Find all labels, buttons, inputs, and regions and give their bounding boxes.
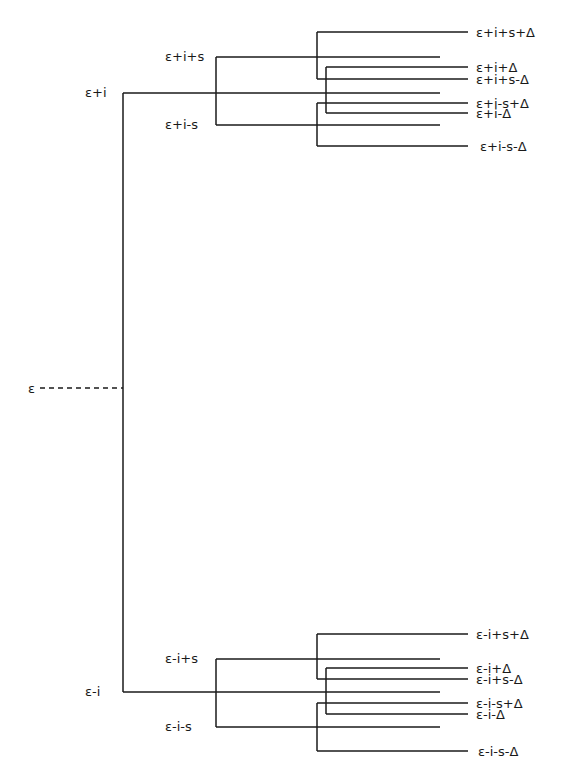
branch-group-minus-i: ε-iε-i+sε-i-sε-i+s+Δε-i+Δε-i+s-Δε-i-s+Δε…	[85, 627, 529, 759]
s-branch-label: ε+i+s	[165, 49, 204, 64]
branch-label: ε+i	[85, 85, 107, 100]
leaf-label: ε-i+s-Δ	[476, 672, 523, 687]
root-node: ε	[28, 93, 123, 692]
leaf-label: ε+i-Δ	[476, 106, 511, 121]
leaf-label: ε-i+s+Δ	[476, 627, 529, 642]
s-branch-label: ε+i-s	[165, 117, 198, 132]
leaf-label: ε+i-s-Δ	[480, 139, 527, 154]
leaf-label: ε-i-s-Δ	[478, 744, 518, 759]
leaf-label: ε+i+s+Δ	[476, 25, 535, 40]
tree-diagram: ε ε+iε+i+sε+i-sε+i+s+Δε+i+Δε+i+s-Δε+i-s+…	[0, 0, 586, 778]
s-branch-label: ε-i-s	[165, 719, 192, 734]
leaf-label: ε-i-Δ	[476, 707, 505, 722]
s-branch-label: ε-i+s	[165, 651, 198, 666]
root-label: ε	[28, 381, 35, 396]
branch-label: ε-i	[85, 684, 100, 699]
branch-groups: ε+iε+i+sε+i-sε+i+s+Δε+i+Δε+i+s-Δε+i-s+Δε…	[85, 25, 535, 759]
branch-group-plus-i: ε+iε+i+sε+i-sε+i+s+Δε+i+Δε+i+s-Δε+i-s+Δε…	[85, 25, 535, 154]
leaf-label: ε+i+s-Δ	[476, 72, 529, 87]
